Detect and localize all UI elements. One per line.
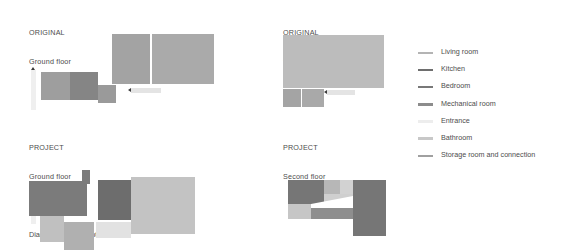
panel-title-line1: ORIGINAL	[29, 28, 71, 38]
room-mechanical-room	[70, 72, 98, 100]
circulation-arrow-icon	[128, 88, 131, 92]
legend-label-mechanical-room: Mechanical room	[441, 98, 496, 110]
panel-title-line1: PROJECT	[283, 143, 326, 153]
room-living-room	[131, 177, 195, 234]
panel-title-original-ground: ORIGINAL Ground floor	[29, 9, 71, 76]
connection-wedge	[311, 196, 381, 216]
room-storage-room	[340, 180, 353, 194]
room-bathroom	[41, 72, 70, 100]
room-storage-room	[98, 85, 116, 103]
entrance-strip	[31, 70, 36, 110]
room-bathroom	[324, 180, 340, 194]
legend-label-living-room: Living room	[441, 46, 478, 58]
room-mechanical-room	[98, 180, 133, 220]
legend-swatch-bathroom	[418, 137, 433, 140]
panel-title-line2: Ground floor	[29, 57, 71, 67]
room-kitchen-neck	[82, 170, 90, 184]
legend-swatch-kitchen	[418, 69, 433, 72]
legend-label-storage-room: Storage room and connection	[441, 149, 535, 161]
room-bathroom	[64, 222, 94, 250]
room-living-room	[152, 34, 214, 84]
entrance-arrow-icon	[31, 67, 35, 70]
legend-label-kitchen: Kitchen	[441, 63, 465, 75]
room-entrance-strip	[288, 204, 312, 219]
room-bedroom	[112, 34, 150, 84]
room-kitchen	[29, 181, 87, 216]
panel-title-line1: PROJECT	[29, 143, 71, 153]
legend-swatch-mechanical-room	[418, 103, 433, 106]
room-bedroom	[283, 89, 301, 107]
room-entrance-area	[40, 216, 64, 242]
legend-label-entrance: Entrance	[441, 115, 470, 127]
legend-label-bathroom: Bathroom	[441, 132, 472, 144]
room-living-room	[283, 35, 384, 88]
legend-swatch-living-room	[418, 52, 433, 55]
room-storage-room	[96, 222, 131, 238]
legend-swatch-entrance	[418, 120, 433, 123]
circulation-strip	[327, 90, 355, 95]
legend-swatch-storage-room	[418, 155, 433, 158]
legend-label-bedroom: Bedroom	[441, 80, 470, 92]
legend-swatch-bedroom	[418, 86, 433, 89]
circulation-strip	[131, 88, 161, 93]
room-bathroom	[302, 89, 324, 107]
